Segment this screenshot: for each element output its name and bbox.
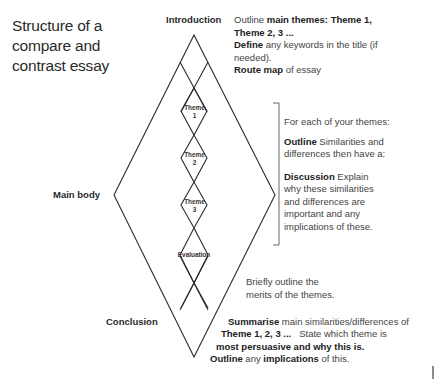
conclusion-outline: Outline [210,353,243,364]
theme-3-word: Theme [182,198,207,206]
intro-outline-text: Outline [234,14,267,25]
main-body-intro: For each of your themes: [284,116,432,129]
main-body-discussion-line-4: important and any [284,208,432,221]
conclusion-summarise-text: main similarities/differences of [279,316,409,327]
intro-define-text: any keywords in the title (if [263,39,378,50]
evaluation-node: Evaluation [174,251,214,259]
theme-2-num: 2 [182,159,207,167]
main-body-discussion-line-5: implications of these. [284,221,432,234]
conclusion-state-text: State which theme is [291,328,387,339]
theme-2-node: Theme 2 [182,151,207,167]
evaluation-word: Evaluation [174,251,214,259]
main-body-discussion-line-2: why these similarities [284,183,432,196]
theme-2-word: Theme [182,151,207,159]
theme-3-node: Theme 3 [182,198,207,214]
evaluation-line-2: merits of the themes. [246,289,396,302]
introduction-description: Outline main themes: Theme 1, Theme 2, 3… [234,14,430,77]
conclusion-summarise: Summarise [228,316,279,327]
theme-1-num: 1 [182,112,207,120]
main-body-discussion-text: Explain [335,171,369,182]
intro-define: Define [234,39,263,50]
intro-route-map-text: of essay [283,64,321,75]
conclusion-any: any [243,353,264,364]
main-diamond [114,35,275,357]
evaluation-description: Briefly outline the merits of the themes… [246,276,396,301]
main-body-label: Main body [53,189,100,200]
main-body-description: For each of your themes: Outline Similar… [284,116,432,240]
intro-needed: needed). [234,52,430,65]
conclusion-of-this: of this. [319,353,350,364]
conclusion-label: Conclusion [106,316,158,327]
main-body-bracket [273,103,279,245]
theme-1-node: Theme 1 [182,104,207,120]
evaluation-line-1: Briefly outline the [246,276,396,289]
intro-route-map: Route map [234,64,283,75]
conclusion-persuasive: most persuasive and why this is. [216,341,364,352]
conclusion-implications: implications [263,353,318,364]
main-body-discussion: Discussion [284,171,335,182]
main-body-discussion-line-3: and differences are [284,196,432,209]
conclusion-themes: Theme 1, 2, 3 ... [221,328,291,339]
theme-1-word: Theme [182,104,207,112]
introduction-label: Introduction [166,14,221,25]
theme-3-num: 3 [182,206,207,214]
intro-main-themes: main themes: Theme 1, [267,14,372,25]
main-body-outline-text-2: differences then have a: [284,148,432,161]
main-body-outline: Outline [284,136,317,147]
conclusion-description: Summarise main similarities/differences … [206,316,434,365]
main-body-outline-text: Similarities and [317,136,384,147]
intro-themes-cont: Theme 2, 3 ... [234,27,294,38]
